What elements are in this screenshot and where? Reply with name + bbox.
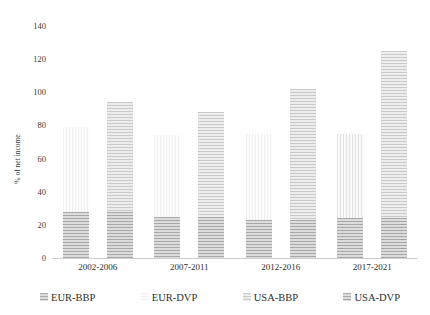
legend-label-eur-dvp: EUR-DVP bbox=[152, 292, 198, 303]
bar-segment-lower bbox=[246, 220, 272, 258]
chart-container: 140 120 100 80 60 40 20 0 % of net incom… bbox=[0, 0, 430, 315]
bar-group-2012-2016 bbox=[235, 26, 327, 258]
bar-segment-upper bbox=[290, 89, 316, 220]
bar-segment-upper bbox=[381, 51, 407, 218]
bar-2017-2021-usa-bbp[interactable] bbox=[337, 134, 363, 258]
y-tick-120: 120 bbox=[33, 55, 46, 64]
y-tick-40: 40 bbox=[38, 188, 47, 197]
bar-segment-upper bbox=[246, 134, 272, 220]
bar-segment-upper bbox=[154, 135, 180, 216]
bar-segment-upper bbox=[63, 127, 89, 212]
bar-segment-lower bbox=[63, 212, 89, 258]
bar-segment-upper bbox=[337, 134, 363, 219]
x-label-2002-2006: 2002-2006 bbox=[52, 262, 144, 278]
bar-segment-upper bbox=[107, 102, 133, 211]
bar-segment-lower bbox=[198, 217, 224, 258]
bar-group-2017-2021 bbox=[327, 26, 419, 258]
y-tick-20: 20 bbox=[38, 221, 47, 230]
y-tick-140: 140 bbox=[33, 22, 46, 31]
legend-item-usa-bbp[interactable]: USA-BBP bbox=[243, 292, 298, 303]
x-label-2012-2016: 2012-2016 bbox=[235, 262, 327, 278]
legend-label-eur-bbp: EUR-BBP bbox=[51, 292, 95, 303]
legend-item-usa-dvp[interactable]: USA-DVP bbox=[343, 292, 400, 303]
bar-segment-lower bbox=[381, 218, 407, 258]
bar-2002-2006-eur-bbp[interactable] bbox=[63, 127, 89, 258]
bar-group-2002-2006 bbox=[52, 26, 144, 258]
bar-segment-upper bbox=[198, 112, 224, 216]
y-axis-title: % of net income bbox=[13, 114, 22, 204]
y-tick-0: 0 bbox=[42, 254, 46, 263]
legend-swatch-icon bbox=[141, 293, 149, 301]
bar-2012-2016-usa-dvp[interactable] bbox=[290, 89, 316, 258]
y-axis-title-wrap: % of net income bbox=[13, 158, 14, 159]
y-tick-80: 80 bbox=[38, 121, 47, 130]
legend-swatch-icon bbox=[243, 293, 251, 301]
bar-segment-lower bbox=[154, 217, 180, 258]
x-label-2007-2011: 2007-2011 bbox=[144, 262, 236, 278]
legend-swatch-icon bbox=[343, 293, 351, 301]
legend-swatch-icon bbox=[40, 293, 48, 301]
bar-groups bbox=[52, 26, 418, 258]
y-axis: 140 120 100 80 60 40 20 0 bbox=[0, 0, 52, 315]
legend-label-usa-bbp: USA-BBP bbox=[254, 292, 298, 303]
bar-2012-2016-usa-bbp[interactable] bbox=[246, 134, 272, 258]
bar-2007-2011-eur-bbp[interactable] bbox=[154, 135, 180, 258]
x-axis-labels: 2002-2006 2007-2011 2012-2016 2017-2021 bbox=[52, 262, 418, 278]
bar-group-2007-2011 bbox=[144, 26, 236, 258]
x-axis-baseline bbox=[52, 258, 418, 259]
bar-2002-2006-eur-dvp[interactable] bbox=[107, 102, 133, 258]
y-tick-60: 60 bbox=[38, 155, 47, 164]
chart-legend: EUR-BBP EUR-DVP USA-BBP USA-DVP bbox=[40, 288, 400, 306]
bar-2007-2011-eur-dvp[interactable] bbox=[198, 112, 224, 258]
legend-label-usa-dvp: USA-DVP bbox=[354, 292, 400, 303]
y-tick-100: 100 bbox=[33, 88, 46, 97]
bar-segment-lower bbox=[337, 218, 363, 258]
bar-segment-lower bbox=[107, 212, 133, 258]
legend-item-eur-bbp[interactable]: EUR-BBP bbox=[40, 292, 95, 303]
legend-item-eur-dvp[interactable]: EUR-DVP bbox=[141, 292, 198, 303]
bar-segment-lower bbox=[290, 220, 316, 258]
x-label-2017-2021: 2017-2021 bbox=[327, 262, 419, 278]
bar-2017-2021-usa-dvp[interactable] bbox=[381, 51, 407, 258]
